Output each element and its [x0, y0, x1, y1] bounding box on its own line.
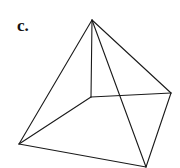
edge-right-front: [146, 93, 171, 167]
edge-front-left: [19, 144, 146, 167]
edge-apex-left: [19, 20, 92, 144]
pyramid-edges: [19, 20, 171, 167]
edge-back-right: [91, 93, 171, 97]
edge-apex-back: [91, 20, 92, 97]
edge-apex-front: [92, 20, 146, 167]
edge-apex-right: [92, 20, 171, 93]
pyramid-diagram: [0, 0, 180, 168]
edge-left-back: [19, 97, 91, 144]
